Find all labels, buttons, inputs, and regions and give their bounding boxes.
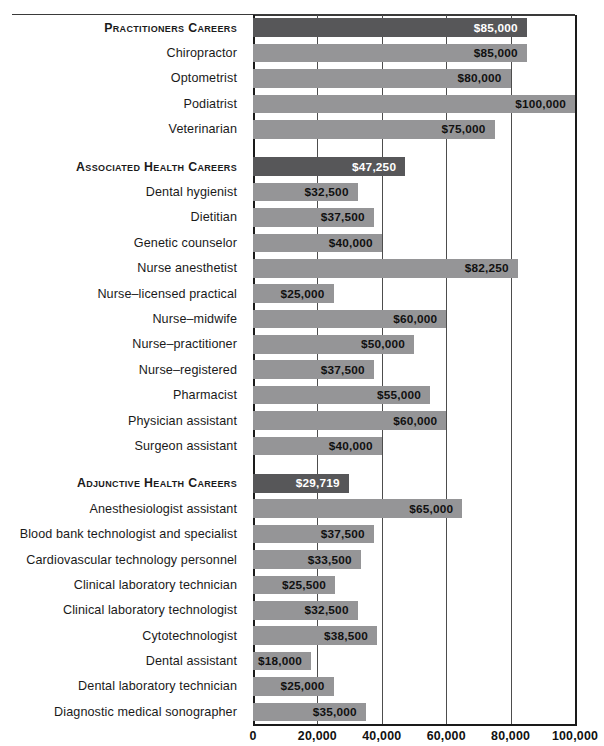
bar-value-label: $32,500	[305, 185, 358, 199]
value-bar: $55,000	[253, 386, 430, 405]
chart-row: Surgeon assistant$40,000	[0, 433, 604, 458]
category-label: Dental assistant	[0, 648, 245, 673]
value-bar: $40,000	[253, 437, 382, 456]
category-label: Clinical laboratory technologist	[0, 598, 245, 623]
bar-value-label: $80,000	[458, 71, 511, 85]
bar-cell: $82,250	[253, 256, 575, 281]
bar-cell: $65,000	[253, 496, 575, 521]
value-bar: $100,000	[253, 95, 575, 114]
value-bar: $35,000	[253, 703, 366, 722]
value-bar: $80,000	[253, 69, 511, 88]
category-label: Genetic counselor	[0, 230, 245, 255]
bar-value-label: $33,500	[308, 553, 361, 567]
bar-cell: $25,000	[253, 674, 575, 699]
category-label: Blood bank technologist and specialist	[0, 521, 245, 546]
bar-value-label: $60,000	[393, 414, 446, 428]
value-bar: $37,500	[253, 208, 374, 227]
bar-value-label: $35,000	[313, 705, 366, 719]
category-label: Nurse–midwife	[0, 306, 245, 331]
chart-row: Blood bank technologist and specialist$3…	[0, 521, 604, 546]
x-tick-label: 80,000	[491, 729, 530, 743]
category-label: Nurse–registered	[0, 357, 245, 382]
category-label: Cytotechnologist	[0, 623, 245, 648]
bar-cell: $25,500	[253, 572, 575, 597]
chart-row: Dental hygienist$32,500	[0, 179, 604, 204]
x-tick-label: 100,000	[552, 729, 598, 743]
bar-value-label: $75,000	[441, 122, 494, 136]
x-tick-label: 60,000	[427, 729, 466, 743]
category-label: Nurse–licensed practical	[0, 281, 245, 306]
chart-row: Chiropractor$85,000	[0, 40, 604, 65]
bar-cell: $32,500	[253, 179, 575, 204]
category-label: Dental hygienist	[0, 179, 245, 204]
chart-row: Clinical laboratory technologist$32,500	[0, 598, 604, 623]
value-bar: $25,000	[253, 677, 334, 696]
chart-row: Cytotechnologist$38,500	[0, 623, 604, 648]
chart-row: Cardiovascular technology personnel$33,5…	[0, 547, 604, 572]
bar-value-label: $100,000	[515, 97, 575, 111]
bar-cell: $47,250	[253, 154, 575, 179]
value-bar: $40,000	[253, 234, 382, 253]
bar-cell: $40,000	[253, 433, 575, 458]
bar-value-label: $25,000	[280, 287, 333, 301]
value-bar: $37,500	[253, 525, 374, 544]
category-label: Dietitian	[0, 205, 245, 230]
section-gap	[0, 459, 604, 471]
category-label: Pharmacist	[0, 382, 245, 407]
bar-value-label: $55,000	[377, 388, 430, 402]
bar-cell: $100,000	[253, 91, 575, 116]
chart-row: Clinical laboratory technician$25,500	[0, 572, 604, 597]
bar-value-label: $37,500	[321, 527, 374, 541]
value-bar: $25,000	[253, 284, 334, 303]
chart-row: Dental assistant$18,000	[0, 648, 604, 673]
category-label: Anesthesiologist assistant	[0, 496, 245, 521]
bar-value-label: $47,250	[352, 160, 405, 174]
chart-row: Optometrist$80,000	[0, 66, 604, 91]
bar-value-label: $37,500	[321, 210, 374, 224]
category-label: Veterinarian	[0, 117, 245, 142]
bar-cell: $35,000	[253, 699, 575, 724]
bar-cell: $60,000	[253, 306, 575, 331]
bar-cell: $18,000	[253, 648, 575, 673]
bar-cell: $50,000	[253, 332, 575, 357]
section-header-bar: $29,719	[253, 474, 349, 493]
bar-cell: $85,000	[253, 15, 575, 40]
value-bar: $32,500	[253, 601, 358, 620]
chart-row: Dietitian$37,500	[0, 205, 604, 230]
category-label: Cardiovascular technology personnel	[0, 547, 245, 572]
category-label: Clinical laboratory technician	[0, 572, 245, 597]
bar-value-label: $40,000	[329, 236, 382, 250]
bar-value-label: $82,250	[465, 261, 518, 275]
category-label: Surgeon assistant	[0, 433, 245, 458]
bar-cell: $60,000	[253, 408, 575, 433]
value-bar: $38,500	[253, 626, 377, 645]
chart-row: Physician assistant$60,000	[0, 408, 604, 433]
category-label: Podiatrist	[0, 91, 245, 116]
category-label: Dental laboratory technician	[0, 674, 245, 699]
category-label: Diagnostic medical sonographer	[0, 699, 245, 724]
x-tick-label: 20,000	[298, 729, 337, 743]
chart-row: Nurse–midwife$60,000	[0, 306, 604, 331]
bar-value-label: $18,000	[258, 654, 311, 668]
category-label: Optometrist	[0, 66, 245, 91]
chart-row: Pharmacist$55,000	[0, 382, 604, 407]
bar-cell: $40,000	[253, 230, 575, 255]
bar-value-label: $25,000	[280, 679, 333, 693]
chart-row: Dental laboratory technician$25,000	[0, 674, 604, 699]
bar-value-label: $29,719	[296, 476, 349, 490]
x-tick-label: 0	[249, 729, 256, 743]
section-header-bar: $85,000	[253, 18, 527, 37]
bar-value-label: $40,000	[329, 439, 382, 453]
section-header-bar: $47,250	[253, 157, 405, 176]
bar-cell: $32,500	[253, 598, 575, 623]
bar-cell: $37,500	[253, 205, 575, 230]
bar-value-label: $38,500	[324, 629, 377, 643]
chart-row: Veterinarian$75,000	[0, 117, 604, 142]
value-bar: $32,500	[253, 183, 358, 202]
chart-row: Nurse–practitioner$50,000	[0, 332, 604, 357]
bar-cell: $55,000	[253, 382, 575, 407]
value-bar: $50,000	[253, 335, 414, 354]
chart-row: Nurse anesthetist$82,250	[0, 256, 604, 281]
section-header-label: Practitioners Careers	[0, 15, 245, 40]
bar-cell: $75,000	[253, 117, 575, 142]
